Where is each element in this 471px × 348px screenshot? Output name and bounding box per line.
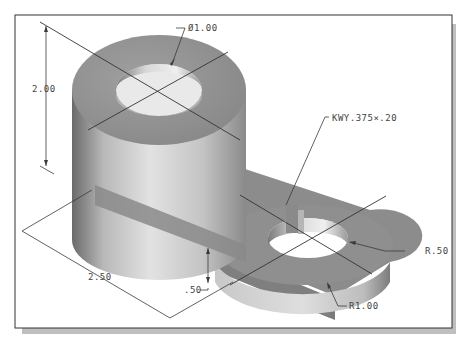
label-boss-height: 2.00 <box>32 84 56 94</box>
label-keyway: KWY.375×.20 <box>332 113 397 123</box>
part-drawing-canvas: Ø1.00 2.00 KWY.375×.20 R.50 R1.00 2.50 .… <box>0 0 471 348</box>
label-arm-length: 2.50 <box>88 272 112 282</box>
label-hole-radius: R.50 <box>425 246 449 256</box>
label-arm-thickness: .50 <box>184 285 202 295</box>
boss-cylinder <box>72 35 246 280</box>
label-outer-radius: R1.00 <box>349 301 379 311</box>
label-hole-diameter: Ø1.00 <box>188 23 218 33</box>
